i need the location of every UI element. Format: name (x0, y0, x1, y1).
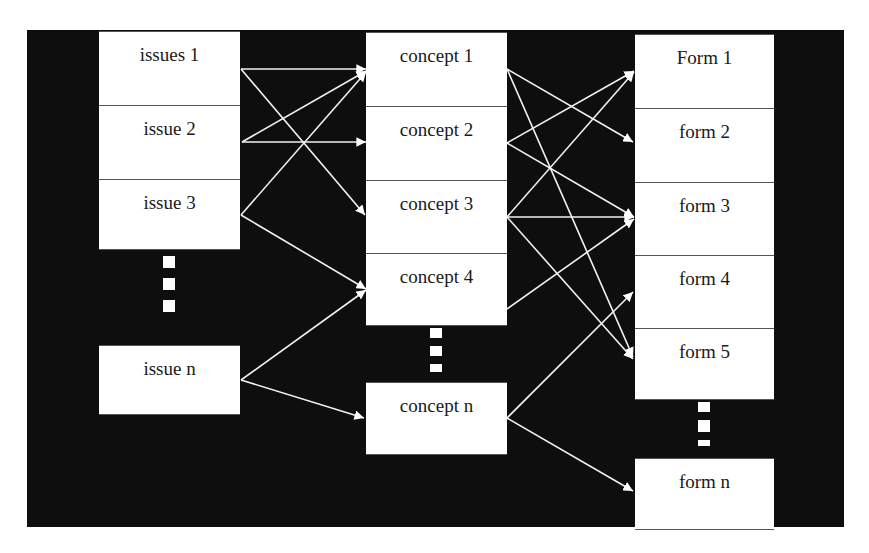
arrow-conceptn-form4 (507, 292, 633, 418)
arrow-issuen-conceptn (241, 380, 364, 418)
arrow-concept1-form2 (507, 69, 633, 142)
arrow-issue2-concept1 (242, 71, 366, 142)
arrow-conceptn-formn (507, 418, 633, 491)
arrow-concept3-form1 (507, 72, 634, 217)
arrows-layer (0, 0, 869, 553)
issue-concept-form-diagram: issues 1 issue 2 issue 3 issue n concept… (0, 0, 869, 553)
arrow-concept4-form3 (507, 219, 634, 309)
arrow-issue3-concept4 (241, 215, 366, 289)
arrow-issuen-concept4 (241, 290, 366, 380)
arrow-concept2-form3 (507, 143, 634, 217)
arrow-concept3-form5 (507, 217, 633, 359)
arrow-concept1-form5 (507, 69, 633, 357)
